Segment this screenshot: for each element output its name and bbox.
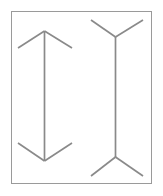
illusion-figure-container [0,0,163,196]
illusion-diagram [0,0,163,196]
border-frame [12,12,152,184]
